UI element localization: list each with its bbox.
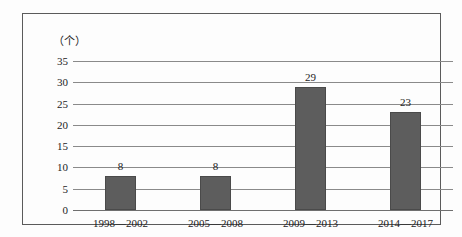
bar bbox=[295, 87, 326, 210]
bar bbox=[105, 176, 136, 210]
chart-screenshot: （个） 0510152025303581998—200282005—200829… bbox=[0, 0, 462, 237]
x-axis-category-label: 2005—2008 bbox=[188, 218, 243, 229]
gridline bbox=[73, 61, 453, 62]
x-axis-category-label: 2009—2013 bbox=[283, 218, 338, 229]
bar bbox=[390, 112, 421, 210]
y-axis-tick-label: 35 bbox=[57, 56, 68, 67]
y-axis-tick-label: 5 bbox=[63, 183, 69, 194]
y-axis-tick-label: 30 bbox=[57, 77, 68, 88]
y-axis-tick-label: 15 bbox=[57, 141, 68, 152]
gridline bbox=[73, 82, 453, 83]
y-axis-tick-label: 0 bbox=[63, 205, 69, 216]
bar-value-label: 29 bbox=[305, 72, 316, 83]
gridline bbox=[73, 104, 453, 105]
bar-value-label: 8 bbox=[213, 161, 219, 172]
y-axis-tick-label: 20 bbox=[57, 119, 68, 130]
bar bbox=[200, 176, 231, 210]
axis-baseline bbox=[73, 210, 453, 211]
plot-area: 0510152025303581998—200282005—2008292009… bbox=[73, 61, 453, 210]
x-axis-category-label: 1998—2002 bbox=[93, 218, 148, 229]
x-axis-category-label: 2014—2017 bbox=[378, 218, 433, 229]
y-axis-tick-label: 10 bbox=[57, 162, 68, 173]
y-axis-unit-label: （个） bbox=[53, 36, 86, 47]
bar-value-label: 8 bbox=[118, 161, 124, 172]
y-axis-tick-label: 25 bbox=[57, 98, 68, 109]
bar-value-label: 23 bbox=[400, 97, 411, 108]
chart-frame: （个） 0510152025303581998—200282005—200829… bbox=[22, 13, 441, 225]
